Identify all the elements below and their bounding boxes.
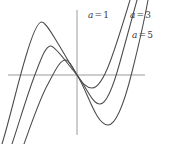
curve-label-a1: a=1	[88, 11, 109, 20]
curve-label-a5-var: a	[132, 30, 138, 40]
curve-label-a3-var: a	[130, 10, 136, 20]
cubic-family-figure: a=1 a=3 a=5	[0, 0, 172, 144]
curve-label-a1-eq: =	[95, 10, 103, 20]
curve-label-a3: a=3	[130, 11, 151, 20]
curve-label-a1-var: a	[88, 10, 94, 20]
curve-label-a3-value: 3	[145, 10, 151, 20]
axes-group	[8, 10, 145, 135]
curve-label-a5: a=5	[132, 31, 153, 40]
curve-label-a3-eq: =	[137, 10, 145, 20]
curve-label-a5-value: 5	[147, 30, 153, 40]
curve-a5	[2, 0, 148, 144]
curves-group	[2, 0, 148, 144]
plot-canvas	[0, 0, 172, 144]
curve-label-a1-value: 1	[103, 10, 109, 20]
curve-label-a5-eq: =	[139, 30, 147, 40]
